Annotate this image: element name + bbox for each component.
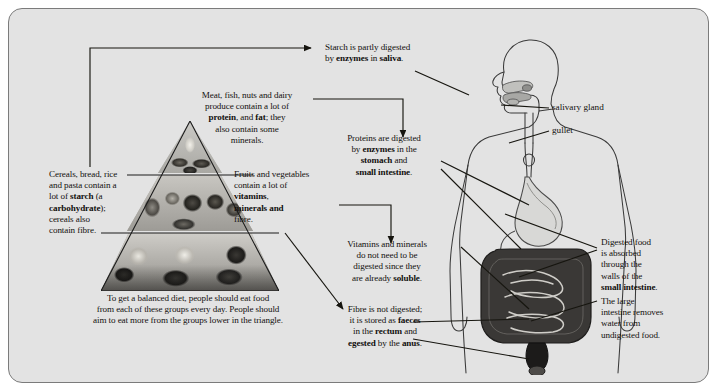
mouth-and-salivary-glands [502, 81, 532, 105]
gullet-label: gullet [552, 125, 573, 136]
digested-food-absorbed-caption: Digested foodis absorbedthrough thewalls… [601, 237, 701, 293]
stomach-organ [515, 177, 562, 246]
cereals-caption: Cereals, bread, riceand pasta contain al… [49, 169, 141, 236]
fibre-not-digested-caption: Fibre is not digested;it is stored as fa… [321, 304, 449, 349]
balanced-diet-caption: To get a balanced diet, people should ea… [57, 293, 319, 327]
vitamins-minerals-soluble-caption: Vitamins and mineralsdo not need to bedi… [319, 239, 455, 284]
starch-caption: Starch is partly digestedby enzymes in s… [325, 42, 457, 64]
proteins-digested-caption: Proteins are digestedby enzymes in thest… [321, 133, 447, 178]
diagram-frame: Starch is partly digestedby enzymes in s… [8, 8, 709, 383]
connector-fruits-to-vitamins [339, 205, 391, 243]
salivary-gland-label: salivary gland [552, 102, 604, 113]
large-intestine-organ [481, 249, 591, 343]
gullet-bolus [524, 154, 535, 166]
meat-fish-nuts-dairy-caption: Meat, fish, nuts and dairyproduce contai… [177, 90, 317, 146]
rectum-and-anus [526, 343, 548, 375]
connector-meat-to-proteins [313, 99, 403, 137]
large-intestine-caption: The largeintestine removeswater fromundi… [601, 296, 705, 341]
